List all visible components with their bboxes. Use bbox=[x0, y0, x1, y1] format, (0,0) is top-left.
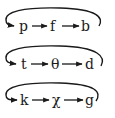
node-label: θ bbox=[51, 56, 59, 72]
node-label: k bbox=[20, 92, 29, 108]
cycle-1: p f b bbox=[6, 8, 101, 34]
node-label: t bbox=[21, 56, 27, 72]
node-label: f bbox=[50, 18, 57, 34]
node-label: χ bbox=[52, 92, 61, 108]
cycle-3: k χ g bbox=[6, 83, 98, 108]
node-label: b bbox=[81, 18, 90, 34]
node-label: d bbox=[85, 56, 94, 72]
cycle-2: t θ d bbox=[6, 46, 102, 72]
node-label: p bbox=[19, 18, 28, 34]
cycle-diagram: p f b t θ d k χ g bbox=[0, 0, 115, 118]
node-label: g bbox=[85, 92, 94, 108]
